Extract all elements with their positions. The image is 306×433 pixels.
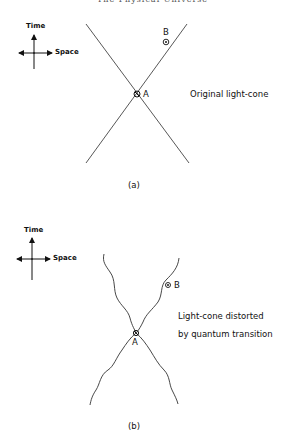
event-b-marker-a bbox=[163, 39, 169, 45]
space-axis-label-b: Space bbox=[53, 254, 77, 262]
distorted-caption-line1: Light-cone distorted bbox=[178, 311, 264, 321]
panel-a-label: (a) bbox=[128, 180, 140, 190]
event-b-label-b: B bbox=[174, 280, 180, 290]
space-axis-label-a: Space bbox=[55, 48, 79, 56]
original-light-cone bbox=[86, 24, 189, 163]
axes-icon-b bbox=[17, 238, 50, 280]
event-a-marker-a bbox=[134, 91, 140, 97]
axes-icon-a bbox=[19, 35, 52, 69]
light-cone-diagram bbox=[0, 0, 306, 433]
time-axis-label-b: Time bbox=[24, 226, 43, 234]
event-a-label-a: A bbox=[143, 89, 149, 99]
event-b-marker-b bbox=[166, 283, 171, 288]
time-axis-label-a: Time bbox=[26, 22, 45, 30]
distorted-caption-line2: by quantum transition bbox=[178, 329, 273, 339]
panel-b-label: (b) bbox=[128, 421, 140, 431]
distorted-light-cone bbox=[90, 254, 179, 405]
event-a-marker-b bbox=[133, 330, 138, 335]
original-light-cone-caption: Original light-cone bbox=[190, 89, 268, 99]
event-b-label-a: B bbox=[163, 27, 169, 37]
event-a-label-b: A bbox=[132, 337, 138, 347]
